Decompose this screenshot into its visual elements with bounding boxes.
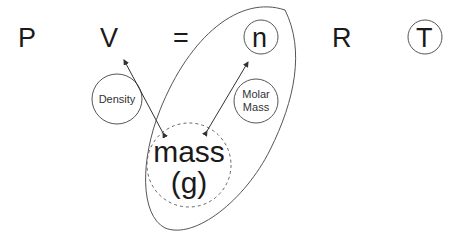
term-V: V <box>100 23 118 53</box>
term-P: P <box>18 23 36 53</box>
molar-mass-label-2: Mass <box>243 101 270 113</box>
molar-mass-label-1: Molar <box>242 88 270 100</box>
term-n: n <box>252 23 267 53</box>
term-T: T <box>416 23 433 53</box>
ideal-gas-diagram: P V = n R T Density Molar Mass mass (g) <box>0 0 463 237</box>
term-equals: = <box>173 23 189 53</box>
mass-label-1: mass <box>153 135 225 168</box>
density-label: Density <box>99 93 136 105</box>
grouping-ellipse <box>146 7 296 230</box>
term-R: R <box>332 23 352 53</box>
mass-label-2: (g) <box>171 166 208 199</box>
